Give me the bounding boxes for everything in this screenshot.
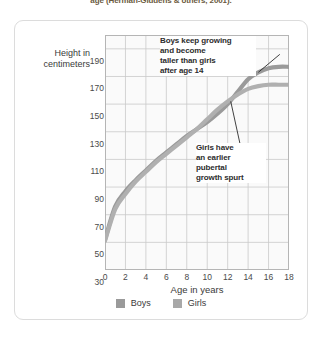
x-tick-0: 0 bbox=[103, 272, 108, 282]
annotation-boys-line1: Boys keep growing bbox=[160, 36, 256, 46]
x-tick-18: 18 bbox=[284, 272, 293, 282]
x-tick-6: 6 bbox=[164, 272, 169, 282]
y-tick-190: 190 bbox=[90, 56, 104, 66]
legend-label-girls: Girls bbox=[188, 298, 207, 308]
y-tick-170: 170 bbox=[90, 83, 104, 93]
legend-swatch-girls bbox=[173, 299, 182, 308]
legend-item-boys[interactable]: Boys bbox=[116, 298, 151, 308]
figure-caption: age (Herman-Giddens & others, 2001). bbox=[0, 0, 322, 5]
annotation-girls-line2: an earlier bbox=[196, 153, 266, 163]
x-axis-tick-labels: 024681012141618 bbox=[105, 272, 289, 284]
annotation-girls-line3: pubertal bbox=[196, 163, 266, 173]
y-tick-150: 150 bbox=[90, 111, 104, 121]
annotation-girls: Girls havean earlierpubertalgrowth spurt bbox=[196, 143, 266, 183]
annotation-boys-line3: taller than girls bbox=[160, 56, 256, 66]
annotation-girls-line1: Girls have bbox=[196, 143, 266, 153]
legend-swatch-boys bbox=[116, 299, 125, 308]
y-tick-130: 130 bbox=[90, 139, 104, 149]
x-tick-4: 4 bbox=[144, 272, 149, 282]
annotation-boys-line4: after age 14 bbox=[160, 66, 256, 76]
annotation-girls-line4: growth spurt bbox=[196, 173, 266, 183]
y-tick-110: 110 bbox=[90, 166, 104, 176]
y-tick-70: 70 bbox=[95, 222, 104, 232]
x-tick-8: 8 bbox=[184, 272, 189, 282]
y-tick-90: 90 bbox=[95, 194, 104, 204]
x-tick-14: 14 bbox=[243, 272, 252, 282]
y-axis-tick-labels: 30507090110130150170190 bbox=[78, 47, 104, 277]
x-axis-title: Age in years bbox=[105, 284, 289, 295]
annotation-boys-line2: and become bbox=[160, 46, 256, 56]
chart-legend: BoysGirls bbox=[14, 298, 308, 308]
y-tick-50: 50 bbox=[95, 249, 104, 259]
x-tick-2: 2 bbox=[123, 272, 128, 282]
legend-item-girls[interactable]: Girls bbox=[173, 298, 207, 308]
x-tick-10: 10 bbox=[202, 272, 211, 282]
x-tick-16: 16 bbox=[264, 272, 273, 282]
x-tick-12: 12 bbox=[223, 272, 232, 282]
legend-label-boys: Boys bbox=[131, 298, 151, 308]
annotation-boys: Boys keep growingand becometaller than g… bbox=[160, 36, 256, 76]
